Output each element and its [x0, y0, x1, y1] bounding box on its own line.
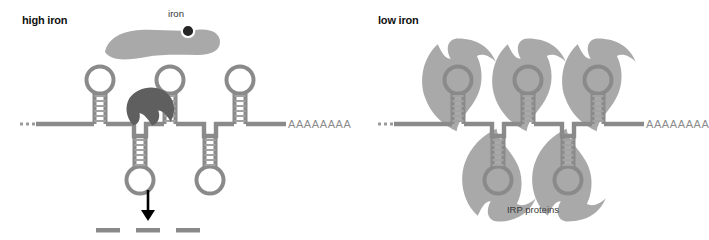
stem-loop-up-1 — [87, 67, 114, 125]
diagram-canvas: high iron iron — [0, 0, 709, 240]
mrna-backbone-high-iron — [20, 124, 286, 136]
protein-product — [96, 228, 200, 233]
irp-proteins-caption: IRP proteins — [507, 204, 559, 215]
poly-a-tail-low-iron: AAAAAAAA — [646, 118, 709, 130]
stem-loop-down-1 — [127, 136, 154, 194]
iron-atom — [182, 25, 194, 37]
figure-root: high iron iron — [0, 0, 709, 240]
irp-protein-up-2 — [492, 39, 566, 132]
panel-low-iron: low iron — [378, 14, 709, 222]
panel-title-low-iron: low iron — [378, 14, 419, 26]
iron-label: iron — [168, 8, 184, 19]
stem-loop-up-3 — [227, 67, 254, 125]
irp-protein-up-3 — [562, 39, 636, 132]
mrna-backbone-low-iron — [378, 124, 644, 136]
irp-protein-up-1 — [422, 39, 496, 132]
iron-bound-irp-protein — [127, 87, 175, 125]
free-irp-protein — [105, 30, 220, 60]
poly-a-tail-high-iron: AAAAAAAA — [288, 118, 352, 130]
panel-high-iron: high iron iron — [20, 8, 352, 233]
stem-loop-down-2 — [197, 136, 224, 194]
panel-title-high-iron: high iron — [22, 14, 68, 26]
